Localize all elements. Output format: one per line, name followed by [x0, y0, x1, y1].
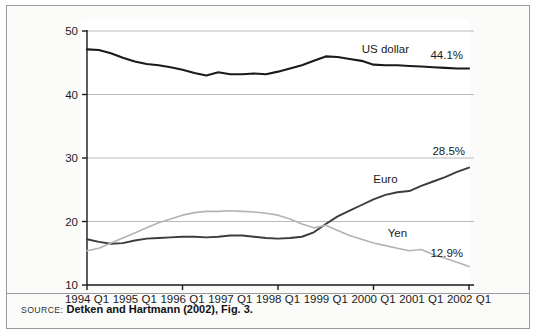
chart-plot-area: 10203040501994 Q11995 Q11996 Q11997 Q119…	[7, 6, 529, 292]
figure-panel: 10203040501994 Q11995 Q11996 Q11997 Q119…	[6, 5, 530, 329]
series-line-us-dollar	[87, 49, 469, 75]
y-tick-label-50: 50	[65, 25, 78, 37]
end-value-label-yen: 12.9%	[430, 247, 463, 259]
source-kicker: SOURCE:	[21, 305, 63, 315]
end-value-label-euro: 28.5%	[432, 145, 465, 157]
series-line-euro	[87, 168, 469, 244]
end-value-label-us-dollar: 44.1%	[430, 49, 463, 61]
source-row: SOURCE: Detken and Hartmann (2002), Fig.…	[7, 293, 529, 328]
y-tick-label-10: 10	[65, 279, 78, 291]
series-label-us-dollar: US dollar	[362, 43, 409, 55]
y-tick-label-40: 40	[65, 89, 78, 101]
line-chart: 10203040501994 Q11995 Q11996 Q11997 Q119…	[7, 6, 529, 296]
series-label-yen: Yen	[388, 227, 407, 239]
series-label-euro: Euro	[373, 173, 397, 185]
source-citation: Detken and Hartmann (2002), Fig. 3.	[66, 303, 252, 315]
source-note: SOURCE: Detken and Hartmann (2002), Fig.…	[21, 303, 253, 315]
y-tick-label-30: 30	[65, 152, 78, 164]
y-tick-label-20: 20	[65, 216, 78, 228]
